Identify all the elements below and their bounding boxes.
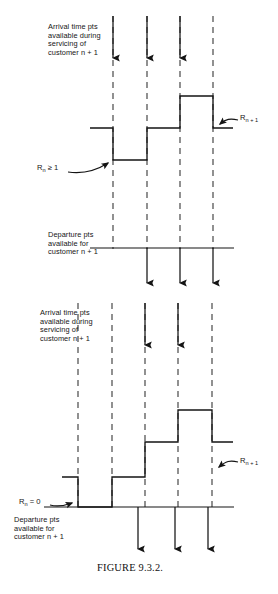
figure-9-3-2: Arrival time pts available during servic… [0, 0, 278, 594]
upper-departure-label: Departure pts available for customer n +… [48, 231, 98, 257]
upper-rn1-label: Rn + 1 [240, 113, 258, 123]
upper-departure-arrows [147, 248, 213, 283]
upper-rn-label: Rn ≥ 1 [37, 163, 58, 173]
figure-drawing [0, 0, 278, 594]
lower-departure-arrows [138, 507, 208, 549]
upper-rn-leader-line [68, 163, 108, 173]
lower-rn-leader-line [50, 503, 72, 506]
lower-rn1-label: Rn + 1 [240, 456, 258, 466]
upper-arrival-arrows [113, 16, 180, 58]
upper-rn1-label-sub: n + 1 [245, 117, 258, 123]
lower-arrival-arrows [145, 303, 178, 345]
lower-staircase-path [62, 410, 233, 507]
lower-rn-label-rest: = 0 [28, 497, 41, 506]
upper-dashed-lines [113, 16, 213, 249]
upper-rn-label-sub: n [42, 167, 45, 173]
lower-rn-label: Rn = 0 [19, 497, 41, 507]
lower-rn-label-sub: n [24, 501, 27, 507]
lower-rn1-leader-line [219, 461, 238, 467]
upper-staircase-path [90, 96, 233, 160]
upper-rn-label-rest: ≥ 1 [46, 163, 59, 172]
lower-arrival-label: Arrival time pts available during servic… [40, 309, 93, 343]
lower-rn1-label-sub: n + 1 [245, 460, 258, 466]
upper-arrival-label: Arrival time pts available during servic… [48, 23, 101, 57]
figure-caption: FIGURE 9.3.2. [97, 562, 163, 573]
lower-departure-label: Departure pts available for customer n +… [14, 516, 64, 542]
upper-rn1-leader-line [220, 119, 238, 124]
